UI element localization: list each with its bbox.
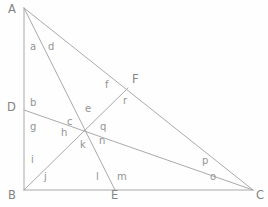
- vertex-label-E: E: [111, 190, 118, 202]
- angle-label-g: g: [30, 122, 36, 132]
- angle-label-o: o: [210, 172, 216, 182]
- angle-label-b: b: [30, 98, 36, 108]
- angle-label-j: j: [44, 172, 47, 182]
- angle-label-d: d: [48, 42, 54, 52]
- segment-DC: [24, 110, 253, 190]
- angle-label-r: r: [123, 96, 127, 106]
- angle-label-i: i: [31, 155, 34, 165]
- angle-label-f: f: [105, 80, 109, 90]
- segment-AC: [24, 8, 253, 190]
- angle-label-m: m: [117, 172, 127, 182]
- vertex-label-F: F: [132, 74, 139, 86]
- vertex-label-B: B: [8, 190, 16, 202]
- angle-label-n: n: [99, 136, 105, 146]
- vertex-label-C: C: [256, 190, 264, 202]
- angle-label-c: c: [67, 117, 73, 127]
- angle-label-q: q: [100, 122, 106, 132]
- angle-label-a: a: [30, 42, 36, 52]
- vertex-label-D: D: [7, 102, 16, 114]
- geometry-figure: ABCDEFadfbergchqknipjlmo: [0, 0, 268, 207]
- segment-BF: [24, 88, 128, 190]
- segment-AE: [24, 8, 115, 190]
- vertex-label-A: A: [8, 4, 16, 16]
- angle-label-p: p: [202, 156, 208, 166]
- diagram-lines: [0, 0, 268, 207]
- angle-label-e: e: [85, 104, 91, 114]
- angle-label-h: h: [61, 128, 67, 138]
- angle-label-k: k: [80, 140, 86, 150]
- angle-label-l: l: [96, 172, 99, 182]
